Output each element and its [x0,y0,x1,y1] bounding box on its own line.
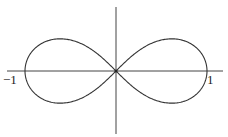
lemniscate-diagram [0,0,228,137]
right-intercept-label: 1 [207,73,214,86]
origin-point [115,70,118,73]
left-intercept-label: −1 [3,73,17,86]
